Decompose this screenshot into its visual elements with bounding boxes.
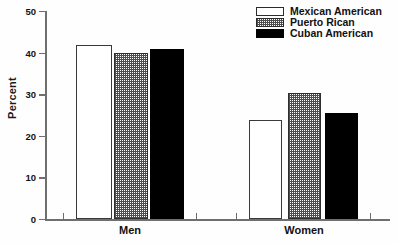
bar-chart: Percent 0 10 20 30 40 50 Men Women Mexic… — [0, 0, 398, 244]
x-axis-separator — [370, 213, 371, 220]
x-axis-label-men: Men — [100, 224, 160, 236]
y-tick-label-50: 50 — [10, 7, 36, 17]
legend-item-mexican-american: Mexican American — [256, 6, 382, 16]
y-tick-50 — [39, 11, 45, 12]
x-axis-label-women: Women — [273, 224, 335, 236]
x-axis-separator — [196, 213, 197, 220]
bar-women-cuban-american — [325, 113, 358, 219]
legend-item-puerto-rican: Puerto Rican — [256, 17, 382, 27]
x-axis-line — [45, 219, 390, 221]
y-tick-0 — [39, 219, 45, 220]
y-tick-label-40: 40 — [10, 49, 36, 59]
y-tick-20 — [39, 136, 45, 137]
x-axis-separator — [236, 213, 237, 220]
y-tick-label-10: 10 — [10, 173, 36, 183]
legend: Mexican American Puerto Rican Cuban Amer… — [256, 6, 382, 38]
legend-label-mexican-american: Mexican American — [290, 6, 382, 17]
bar-men-puerto-rican — [114, 53, 148, 219]
legend-label-cuban-american: Cuban American — [290, 28, 373, 39]
bar-women-mexican-american — [249, 120, 282, 219]
y-tick-label-20: 20 — [10, 132, 36, 142]
bar-men-mexican-american — [76, 45, 112, 219]
bar-women-puerto-rican — [288, 93, 321, 219]
y-tick-10 — [39, 177, 45, 178]
legend-swatch-hatched-icon — [256, 18, 284, 27]
legend-swatch-black-icon — [256, 29, 284, 38]
legend-swatch-white-icon — [256, 7, 284, 16]
x-axis-separator — [63, 213, 64, 220]
y-tick-30 — [39, 94, 45, 95]
y-tick-40 — [39, 53, 45, 54]
legend-item-cuban-american: Cuban American — [256, 28, 382, 38]
legend-label-puerto-rican: Puerto Rican — [290, 17, 355, 28]
y-tick-label-30: 30 — [10, 90, 36, 100]
y-tick-label-0: 0 — [10, 215, 36, 225]
y-axis-line — [45, 11, 47, 220]
bar-men-cuban-american — [150, 49, 184, 219]
